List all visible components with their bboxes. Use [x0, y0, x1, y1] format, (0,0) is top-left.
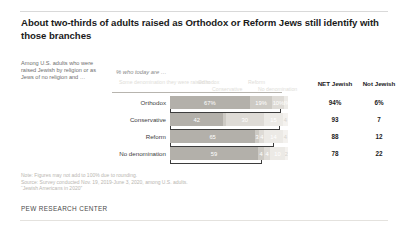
bar-segment-no_denomination: 4 [283, 130, 288, 143]
chart-subcaption: Among U.S. adults who were raised Jewish… [21, 60, 99, 81]
bar-segment-reform: 15 [264, 113, 283, 126]
net-jewish-value: 88 [313, 133, 357, 140]
net-bracket [170, 160, 262, 164]
bar-segment-same: 42 [170, 113, 223, 126]
header-rule [112, 92, 282, 93]
not-jewish-value: 22 [357, 150, 401, 157]
chart-row: Conservative4230154937 [0, 112, 409, 129]
bar-segment-no_denomination: 4 [283, 113, 288, 126]
bottom-divider [20, 220, 388, 221]
percent-axis-label: % who today are … [116, 69, 167, 75]
column-header-net-jewish: NET Jewish [313, 80, 357, 87]
stacked-bar: 4230154 [170, 113, 288, 126]
row-label: No denomination [8, 150, 166, 157]
not-jewish-value: 7 [357, 116, 401, 123]
note-report: “Jewish Americans in 2020” [21, 185, 321, 192]
chart-notes: Note: Figures may not add to 100% due to… [21, 172, 321, 192]
column-header-reform: Reform [248, 79, 265, 85]
bar-segment-reform: 10% [272, 96, 284, 109]
not-jewish-value: 12 [357, 133, 401, 140]
stacked-bar: 67%19%10%3% [170, 96, 288, 109]
column-header-not-jewish: Not Jewish [357, 80, 401, 87]
note-source: Source: Survey conducted Nov. 19, 2019-J… [21, 179, 321, 186]
chart-card: About two-thirds of adults raised as Ort… [0, 0, 409, 233]
stacked-bar: 5944102 [170, 147, 288, 160]
top-divider [20, 11, 388, 12]
footer-brand: PEW RESEARCH CENTER [21, 205, 108, 212]
bar-segment-conservative: 19% [250, 96, 273, 109]
bar-segment-same: 59 [170, 147, 258, 160]
note-rounding: Note: Figures may not add to 100% due to… [21, 172, 321, 179]
net-jewish-value: 78 [313, 150, 357, 157]
chart-row: No denomination59441027822 [0, 146, 409, 163]
chart-rows: Orthodox67%19%10%3%94%6%Conservative4230… [0, 95, 409, 163]
bar-segment-no_denomination: 3% [284, 96, 288, 109]
row-label: Conservative [8, 116, 166, 123]
chart-row: Orthodox67%19%10%3%94%6% [0, 95, 409, 112]
column-header-same-denomination: Some denomination they were raised in [119, 79, 181, 85]
bar-segment-no_denomination: 2 [285, 147, 288, 160]
net-jewish-value: 93 [313, 116, 357, 123]
chart-row: Reform65341448812 [0, 129, 409, 146]
row-label: Orthodox [8, 99, 166, 106]
row-label: Reform [8, 133, 166, 140]
bar-segment-reform: 14 [264, 130, 282, 143]
bar-segment-conservative: 30 [226, 113, 264, 126]
bar-segment-same: 67% [170, 96, 250, 109]
column-header-orthodox: Orthodox [198, 79, 219, 85]
page-title: About two-thirds of adults raised as Ort… [21, 17, 393, 42]
net-jewish-value: 94% [313, 99, 357, 106]
stacked-bar: 6534144 [170, 130, 288, 143]
not-jewish-value: 6% [357, 99, 401, 106]
bar-segment-reform: 10 [270, 147, 285, 160]
bar-segment-same: 65 [170, 130, 255, 143]
